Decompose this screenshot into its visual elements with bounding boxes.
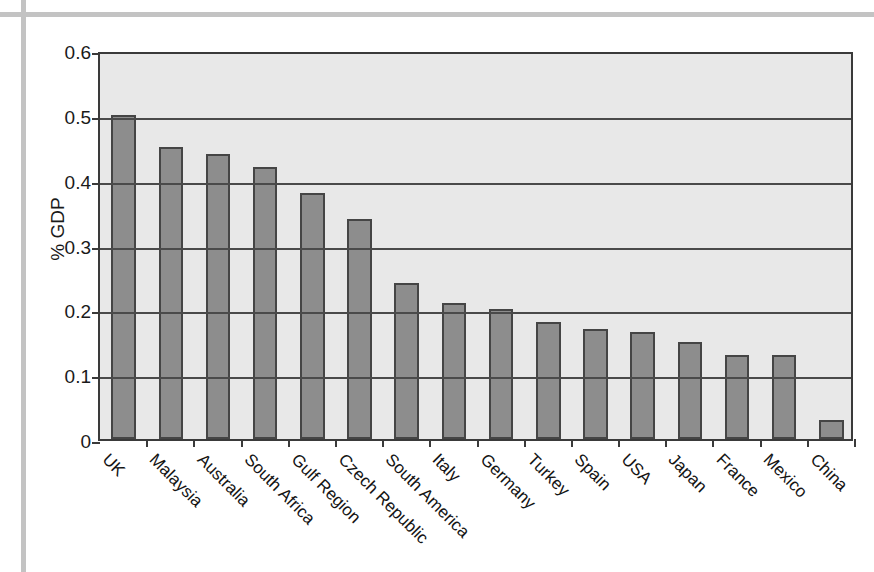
bar — [300, 193, 325, 439]
x-axis-tick — [288, 439, 290, 447]
bar — [536, 322, 561, 439]
x-axis-labels: UKMalaysiaAustraliaSouth AfricaGulf Regi… — [98, 450, 853, 570]
x-axis-tick — [618, 439, 620, 447]
y-axis-tick — [92, 183, 100, 185]
bar — [253, 167, 278, 439]
y-axis-tick-label: 0.3 — [65, 237, 91, 259]
bar — [394, 283, 419, 439]
x-axis-tick — [477, 439, 479, 447]
x-axis-label: UK — [98, 450, 129, 481]
x-axis-label-text: Japan — [664, 450, 711, 497]
y-axis-tick-label: 0.2 — [65, 302, 91, 324]
bar-chart-figure: % GDP 0.60.50.40.30.20.10 UKMalaysiaAust… — [0, 0, 874, 572]
x-axis-label: USA — [617, 450, 656, 489]
y-axis-tick-label: 0 — [80, 431, 91, 453]
x-axis-tick — [193, 439, 195, 447]
bar — [159, 147, 184, 439]
bar — [630, 332, 655, 439]
bar — [206, 154, 231, 439]
bar-series — [100, 54, 851, 439]
x-axis-label-text: USA — [617, 450, 656, 489]
x-axis-label: Spain — [570, 450, 615, 495]
x-axis-label: Italy — [428, 450, 464, 486]
bar — [772, 355, 797, 439]
bar — [583, 329, 608, 439]
x-axis-tick — [146, 439, 148, 447]
x-axis-label: France — [711, 450, 763, 502]
y-axis-tick — [92, 312, 100, 314]
bar — [442, 303, 467, 439]
x-axis-label: China — [806, 450, 852, 496]
gridline — [100, 377, 851, 379]
bar — [725, 355, 750, 439]
gridline — [100, 118, 851, 120]
x-axis-tick — [807, 439, 809, 447]
x-axis-label-text: Spain — [570, 450, 615, 495]
y-axis-tick — [92, 442, 100, 444]
x-axis-label-text: France — [711, 450, 763, 502]
y-axis-tick — [92, 248, 100, 250]
x-axis-label-text: Mexico — [759, 450, 811, 502]
gridline — [100, 312, 851, 314]
y-axis-tick-label: 0.4 — [65, 172, 91, 194]
x-axis-tick — [241, 439, 243, 447]
bar — [819, 420, 844, 439]
y-axis-tick-label: 0.5 — [65, 107, 91, 129]
x-axis-tick — [760, 439, 762, 447]
bar — [111, 115, 136, 439]
x-axis-tick — [524, 439, 526, 447]
y-axis-tick-label: 0.6 — [65, 42, 91, 64]
bar — [489, 309, 514, 439]
x-axis-tick — [429, 439, 431, 447]
x-axis-tick — [335, 439, 337, 447]
page-root: % GDP 0.60.50.40.30.20.10 UKMalaysiaAust… — [0, 0, 874, 572]
gridline — [100, 183, 851, 185]
bar — [347, 219, 372, 439]
y-axis-tick — [92, 377, 100, 379]
plot-area: 0.60.50.40.30.20.10 — [98, 52, 853, 441]
x-axis-label-text: China — [806, 450, 852, 496]
y-axis-tick — [92, 118, 100, 120]
bar — [678, 342, 703, 439]
x-axis-tick — [665, 439, 667, 447]
x-axis-label-text: Italy — [428, 450, 464, 486]
x-axis-tick — [854, 439, 856, 447]
gridline — [100, 248, 851, 250]
x-axis-label: Japan — [664, 450, 711, 497]
x-axis-tick — [571, 439, 573, 447]
x-axis-tick — [712, 439, 714, 447]
x-axis-label: Mexico — [759, 450, 811, 502]
x-axis-label-text: UK — [98, 450, 129, 481]
y-axis-tick-label: 0.1 — [65, 366, 91, 388]
x-axis-tick — [382, 439, 384, 447]
y-axis-tick — [92, 53, 100, 55]
